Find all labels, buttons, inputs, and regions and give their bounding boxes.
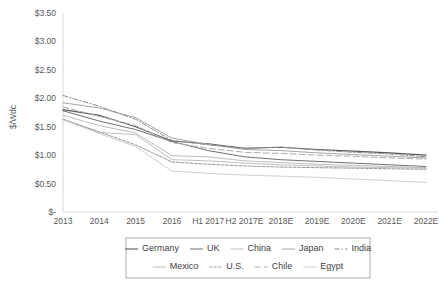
series-line-japan [63,103,426,158]
x-axis-tick-label: 2020E [341,216,366,226]
series-line-u-s [63,119,426,169]
y-axis: $-$0.50$1.00$1.50$2.00$2.50$3.00$3.50 [35,8,438,217]
x-axis-tick-label: 2021E [377,216,402,226]
x-axis-tick-label: 2016 [162,216,181,226]
legend-label-india[interactable]: India [352,243,372,253]
y-axis-tick-label: $3.00 [35,36,57,46]
x-axis-tick-label: H2 2017E [226,216,264,226]
line-chart: $-$0.50$1.00$1.50$2.00$2.50$3.00$3.50 20… [0,0,442,287]
x-axis-tick-label: 2013 [54,216,73,226]
y-axis-tick-label: $3.50 [35,8,57,18]
legend-label-u-s[interactable]: U.S. [226,261,244,271]
legend-label-japan[interactable]: Japan [299,243,324,253]
x-axis: 2013201420152016H1 2017H2 2017E2018E2019… [54,216,439,226]
series-line-mexico [63,115,426,167]
x-axis-tick-label: 2022E [414,216,439,226]
y-axis-tick-label: $1.50 [35,122,57,132]
legend-label-egypt[interactable]: Egypt [320,261,344,271]
legend-label-germany[interactable]: Germany [142,243,180,253]
x-axis-tick-label: 2019E [305,216,330,226]
y-axis-title: $/Wdc [8,104,18,129]
plot-area [63,95,426,182]
y-axis-tick-label: $1.00 [35,150,57,160]
y-axis-tick-label: $0.50 [35,179,57,189]
y-axis-tick-label: $2.00 [35,93,57,103]
series-line-uk [63,111,426,167]
series-line-chile [63,107,426,159]
x-axis-tick-label: 2014 [90,216,109,226]
chart-canvas: $-$0.50$1.00$1.50$2.00$2.50$3.00$3.50 20… [0,0,442,287]
x-axis-tick-label: 2018E [269,216,294,226]
y-axis-title-label: $/Wdc [8,104,18,129]
y-axis-tick-label: $2.50 [35,65,57,75]
chart-legend: GermanyUKChinaJapanIndiaMexicoU.S.ChileE… [125,238,371,278]
legend-label-china[interactable]: China [247,243,271,253]
legend-label-chile[interactable]: Chile [272,261,293,271]
series-line-india [63,95,426,156]
legend-label-uk[interactable]: UK [207,243,220,253]
x-axis-tick-label: 2015 [126,216,145,226]
x-axis-tick-label: H1 2017 [192,216,224,226]
legend-label-mexico[interactable]: Mexico [170,261,199,271]
